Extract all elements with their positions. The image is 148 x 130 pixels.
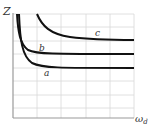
- x-axis-label: ωd: [135, 113, 148, 126]
- axes: [13, 13, 134, 118]
- x-axis-label-main: ω: [135, 113, 143, 124]
- y-axis-label: Z: [2, 5, 11, 18]
- curve-c-label: c: [95, 28, 100, 38]
- x-axis-label-sub: d: [143, 118, 148, 126]
- curve-b-label: b: [39, 43, 45, 53]
- curve-a-label: a: [44, 68, 49, 78]
- chart: Z c b a ωd: [0, 0, 148, 130]
- curve-b: [17, 14, 134, 54]
- grid: [13, 14, 134, 118]
